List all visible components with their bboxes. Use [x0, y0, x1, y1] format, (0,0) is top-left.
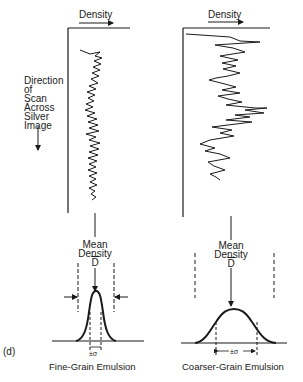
panel-label: (d) [3, 347, 15, 357]
right-caption: Coarser-Grain Emulsion [182, 362, 284, 372]
left-mean-label: Mean Density D [75, 240, 115, 267]
left-gaussian-curve [76, 291, 116, 341]
left-density-trace [80, 50, 102, 200]
right-gaussian-curve [195, 309, 276, 343]
right-sigma-label: ±σ [230, 347, 238, 357]
right-axis-label: Density [208, 10, 241, 20]
right-density-trace [186, 34, 267, 180]
left-sigma-label: ±σ [89, 349, 97, 359]
right-mean-symbol: D [211, 259, 251, 268]
scan-direction-label: Direction of Scan Across Silver Image [24, 76, 63, 130]
left-mean-symbol: D [75, 258, 115, 267]
diagram-canvas [0, 0, 303, 382]
right-mean-label: Mean Density D [211, 241, 251, 268]
left-caption: Fine-Grain Emulsion [49, 362, 136, 372]
left-axes [68, 23, 130, 213]
left-axis-label: Density [79, 10, 112, 20]
